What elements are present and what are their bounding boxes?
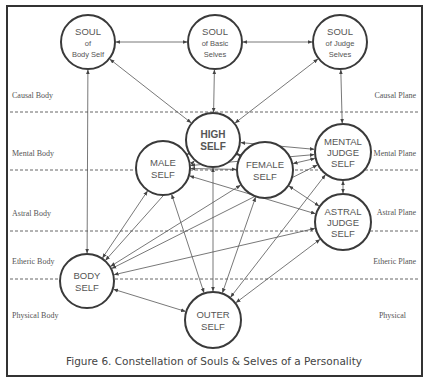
node-soul-judge: SOULof JudgeSelves	[313, 15, 367, 69]
body-label: Causal Body	[12, 91, 53, 100]
plane-label: Etheric Plane	[373, 257, 416, 266]
node-label-line: ASTRAL	[325, 206, 362, 217]
connection-arrows	[87, 42, 343, 311]
node-outer-self: OUTERSELF	[185, 292, 241, 348]
node-label-line: BODY	[74, 270, 102, 281]
node-label-line: SELF	[200, 141, 226, 152]
arrow-female-self-to-outer-self	[223, 197, 256, 292]
node-label-line: HIGH	[201, 129, 226, 140]
body-label: Astral Body	[12, 209, 51, 218]
arrow-female-self-to-body-self	[111, 185, 241, 266]
node-label-line: Body Self	[72, 50, 105, 59]
node-label-line: Selves	[204, 50, 227, 59]
node-high-self: HIGHSELF	[186, 113, 240, 167]
node-label-line: FEMALE	[246, 159, 284, 170]
arrow-high-self-to-female-self	[237, 154, 240, 156]
self-nodes: SOULofBody SelfSOULof BasicSelvesSOULof …	[60, 15, 371, 348]
arrow-astral-judge-to-body-self	[114, 229, 314, 275]
node-label-line: of Basic	[202, 39, 229, 48]
node-label-line: SELF	[201, 321, 225, 332]
arrow-male-self-to-outer-self	[172, 195, 204, 293]
node-soul-basic: SOULof BasicSelves	[188, 15, 242, 69]
node-body-self: BODYSELF	[60, 254, 114, 308]
arrow-soul-basic-to-high-self	[214, 70, 215, 112]
plane-label: Astral Plane	[377, 208, 417, 217]
node-label-line: Selves	[329, 50, 352, 59]
node-label-line: SELF	[331, 158, 355, 169]
node-astral-judge: ASTRALJUDGESELF	[315, 194, 371, 250]
plane-label: Mental Plane	[374, 149, 417, 158]
node-label-line: OUTER	[196, 309, 229, 320]
node-label-line: MALE	[150, 157, 176, 168]
arrow-female-self-to-male-self	[191, 169, 236, 170]
body-label: Mental Body	[12, 149, 54, 158]
node-label-line: SELF	[253, 171, 277, 182]
node-label-line: of Judge	[326, 39, 355, 48]
constellation-diagram: SOULofBody SelfSOULof BasicSelvesSOULof …	[0, 0, 428, 383]
node-label-line: JUDGE	[327, 217, 359, 228]
node-label-line: SELF	[75, 282, 99, 293]
node-label-line: SELF	[331, 228, 355, 239]
body-label: Etheric Body	[12, 257, 54, 266]
node-soul-body: SOULofBody Self	[61, 15, 115, 69]
node-label-line: MENTAL	[324, 136, 362, 147]
node-label-line: SOUL	[327, 26, 353, 37]
node-label-line: JUDGE	[327, 147, 359, 158]
arrow-high-self-to-male-self	[187, 154, 188, 155]
plane-label: Physical	[379, 311, 407, 320]
body-label: Physical Body	[12, 311, 58, 320]
arrow-soul-body-to-body-self	[87, 70, 88, 253]
plane-label: Causal Plane	[374, 91, 416, 100]
arrow-astral-judge-to-outer-self	[236, 240, 320, 303]
node-mental-judge: MENTALJUDGESELF	[315, 124, 371, 180]
arrow-soul-judge-to-high-self	[235, 59, 318, 123]
figure-caption: Figure 6. Constellation of Souls & Selve…	[66, 355, 362, 367]
node-label-line: SOUL	[75, 26, 101, 37]
node-label-line: SELF	[151, 169, 175, 180]
arrow-soul-body-to-high-self	[110, 59, 191, 122]
node-female-self: FEMALESELF	[237, 142, 293, 198]
arrow-mental-judge-to-female-self	[293, 159, 314, 164]
node-male-self: MALESELF	[136, 141, 190, 195]
node-label-line: SOUL	[202, 26, 228, 37]
arrow-soul-judge-to-mental-judge	[341, 70, 342, 123]
node-label-line: of	[85, 39, 92, 48]
arrow-body-self-to-outer-self	[114, 289, 186, 311]
